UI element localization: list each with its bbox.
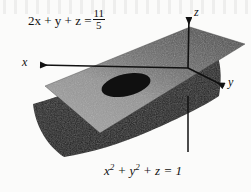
z-axis-label: z [194,6,199,18]
fraction-denominator: 5 [93,19,106,31]
fraction-numerator: 11 [93,8,106,19]
plane-equation-lhs: 2x + y + z = [28,13,92,28]
y-axis-label: y [228,76,233,88]
figure-container: 2x + y + z =115 x2 + y2 + z = 1 x y z [0,0,251,192]
x-axis-label: x [22,56,27,68]
plane-equation-label: 2x + y + z =115 [28,8,105,31]
z-axis [188,17,189,68]
surface-equation-part-2: + y [114,163,135,178]
surface-equation-label: x2 + y2 + z = 1 [104,163,182,177]
surface-equation-part-3: + z = 1 [140,163,182,178]
plane-equation-fraction: 115 [93,8,106,31]
